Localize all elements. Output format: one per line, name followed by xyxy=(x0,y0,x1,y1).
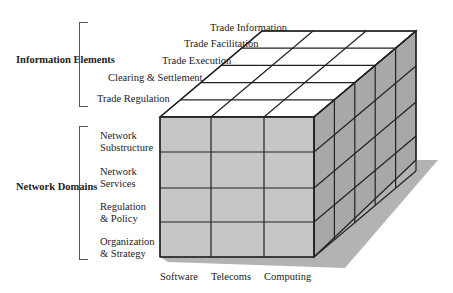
cube-front-face xyxy=(160,117,314,257)
info-element-clearing-settlement: Clearing & Settlement xyxy=(108,72,202,84)
domain-regulation-policy: Regulation & Policy xyxy=(100,201,146,225)
domain-network-substructure: Network Substructure xyxy=(100,130,153,154)
network-domains-bracket xyxy=(79,126,88,260)
domain-line: Network xyxy=(100,130,153,142)
domain-network-services: Network Services xyxy=(100,166,137,190)
info-element-trade-regulation: Trade Regulation xyxy=(97,93,170,105)
column-telecoms: Telecoms xyxy=(211,271,251,283)
domain-line: Services xyxy=(100,178,137,190)
domain-line: & Policy xyxy=(100,213,146,225)
domain-line: Organization xyxy=(100,236,155,248)
column-computing: Computing xyxy=(264,271,311,283)
domain-organization-strategy: Organization & Strategy xyxy=(100,236,155,260)
information-elements-heading: Information Elements xyxy=(16,53,115,66)
domain-line: Network xyxy=(100,166,137,178)
info-element-trade-facilitation: Trade Facilitation xyxy=(184,38,259,50)
info-element-trade-execution: Trade Execution xyxy=(162,55,231,67)
info-element-trade-information: Trade Information xyxy=(210,22,287,34)
domain-line: Regulation xyxy=(100,201,146,213)
domain-line: & Strategy xyxy=(100,248,155,260)
column-software: Software xyxy=(160,271,198,283)
information-elements-bracket xyxy=(79,22,88,107)
domain-line: Substructure xyxy=(100,142,153,154)
